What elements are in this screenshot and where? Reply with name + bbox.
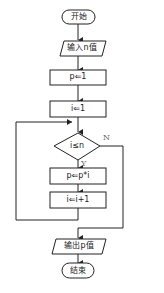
flowchart: 开始 输入n值 p⇐1 i⇐1 i≤n N Y p⇐p*i i⇐i+1 输出p值… <box>0 0 164 293</box>
output-label: 输出p值 <box>54 242 104 250</box>
yes-label: Y <box>81 160 86 168</box>
end-label: 结束 <box>62 267 94 275</box>
update-i-label: i⇐i+1 <box>50 196 106 204</box>
no-label: N <box>103 134 110 142</box>
update-p-label: p⇐p*i <box>50 172 106 180</box>
init-i-label: i⇐1 <box>50 105 106 113</box>
input-label: 输入n值 <box>58 44 106 52</box>
condition-label: i≤n <box>54 142 100 150</box>
init-p-label: p⇐1 <box>50 73 106 81</box>
start-label: 开始 <box>62 13 95 21</box>
